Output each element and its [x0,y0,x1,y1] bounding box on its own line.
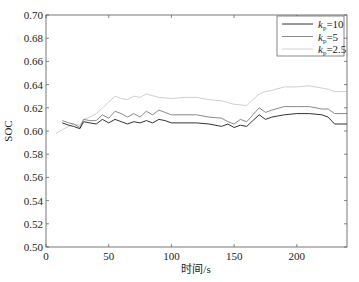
y-tick-label: 0.50 [24,241,44,253]
legend: kp=10kp=5kp=2.5 [277,16,347,57]
x-tick-label: 150 [226,250,243,262]
y-tick-label: 0.66 [24,55,44,67]
x-tick-label: 100 [163,250,180,262]
y-tick-label: 0.64 [24,79,44,91]
y-tick-label: 0.52 [24,218,43,230]
y-tick-label: 0.56 [24,171,44,183]
y-tick-label: 0.68 [24,32,44,44]
x-axis-label: 时间/s [181,263,210,275]
y-tick-label: 0.62 [24,102,43,114]
legend-label: kp=2.5 [318,43,347,57]
soc-line-chart: 050100150200 0.500.520.540.560.580.600.6… [0,0,359,282]
y-tick-label: 0.60 [24,125,44,137]
x-tick-label: 0 [43,250,49,262]
x-tick-label: 200 [289,250,306,262]
y-tick-label: 0.70 [24,9,44,21]
y-axis-label: SOC [2,120,14,141]
x-tick-label: 50 [103,250,115,262]
y-tick-label: 0.58 [24,148,44,160]
y-tick-label: 0.54 [24,195,44,207]
